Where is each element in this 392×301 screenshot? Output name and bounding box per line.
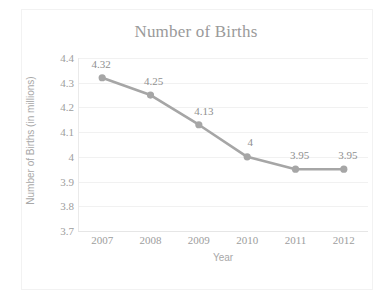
y-axis-title: Number of Births (in millions) [25,66,36,216]
data-point-marker [147,91,154,98]
data-point-marker [99,74,106,81]
series-polyline [102,78,344,169]
chart-screenshot: Number of Births 4.44.34.24.143.93.83.7 … [0,0,392,301]
data-point-marker [195,121,202,128]
x-axis-title: Year [78,252,368,263]
data-point-marker [244,153,251,160]
data-point-marker [292,166,299,173]
data-point-marker [340,166,347,173]
